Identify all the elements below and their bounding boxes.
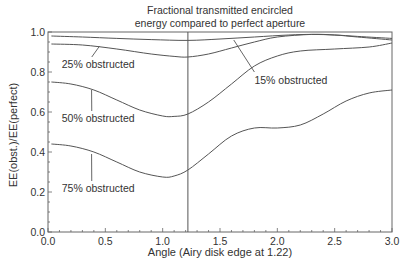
y-tick-label: 0.6 xyxy=(30,106,45,118)
y-axis-label: EE(obst.)/EE(perfect) xyxy=(7,83,19,188)
y-tick-label: 1.0 xyxy=(30,26,45,38)
y-tick-label: 0.2 xyxy=(30,186,45,198)
series-annotations: 25% obstructed15% obstructed50% obstruct… xyxy=(62,40,328,194)
chart: Fractional transmitted encircled energy … xyxy=(0,0,408,277)
annotation-label: 25% obstructed xyxy=(62,58,135,70)
y-tick-label: 0.4 xyxy=(30,146,45,158)
annotation-leader-line xyxy=(92,46,100,57)
title-line-2: energy compared to perfect aperture xyxy=(135,17,306,29)
y-tick-label: 0.0 xyxy=(30,226,45,238)
y-axis-ticks xyxy=(48,32,52,232)
x-tick-label: 3.0 xyxy=(385,235,400,247)
series-lines xyxy=(51,34,392,177)
annotation-label: 15% obstructed xyxy=(254,74,327,86)
annotation-label: 50% obstructed xyxy=(62,112,135,124)
x-axis-label: Angle (Airy disk edge at 1.22) xyxy=(148,246,292,258)
y-axis-tick-labels: 0.00.20.40.60.81.0 xyxy=(30,26,45,238)
x-axis-ticks xyxy=(48,228,392,232)
title-line-1: Fractional transmitted encircled xyxy=(147,4,293,16)
x-tick-label: 2.5 xyxy=(327,235,342,247)
series-line-75pct xyxy=(51,90,392,177)
chart-title: Fractional transmitted encircled energy … xyxy=(135,4,306,29)
x-tick-label: 0.5 xyxy=(98,235,113,247)
y-tick-label: 0.8 xyxy=(30,66,45,78)
annotation-label: 75% obstructed xyxy=(62,182,135,194)
series-line-50pct xyxy=(51,43,392,117)
